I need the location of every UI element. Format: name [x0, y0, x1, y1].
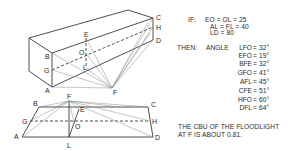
label-a-plan: A [14, 133, 19, 140]
angle-name: LFO [239, 44, 252, 51]
angle-prefix: ANGLE [206, 44, 229, 51]
label-l-plan: L [67, 142, 71, 149]
angle-value: = 64° [253, 104, 269, 111]
angle-value: = 45° [253, 78, 269, 85]
angle-value: = 60° [253, 96, 269, 103]
angle-value: = 32° [253, 60, 269, 67]
conclusion-line: AT F IS ABOUT 0.81. [178, 131, 242, 138]
angle-name: CFE [239, 87, 252, 94]
floodlight-diagram-figure: B G A E O L C H D F F B C E [0, 0, 304, 151]
given-label: IF: [188, 16, 196, 23]
angle-name: HFO [238, 96, 252, 103]
label-h-plan: H [152, 118, 157, 125]
angle-name: AFL [240, 78, 252, 85]
label-e-plan: E [80, 106, 85, 113]
label-g-plan: G [22, 118, 27, 125]
conclusion-line: THE CBU OF THE FLOODLIGHT [178, 123, 279, 130]
angle-name: DFL [240, 104, 252, 111]
label-b-plan: B [33, 100, 38, 107]
given-line: LD = 80 [210, 29, 234, 36]
angle-value: = 19° [253, 52, 269, 59]
angle-value: = 41° [253, 69, 269, 76]
angle-name: BFE [239, 60, 252, 67]
angle-name: GFO [238, 69, 252, 76]
label-d-plan: D [155, 134, 160, 141]
result-label: THEN: [177, 44, 197, 51]
label-c-plan: C [151, 101, 156, 108]
given-line: EO = OL = 25 [205, 16, 247, 23]
angle-name: EFO [238, 52, 252, 59]
label-f-plan: F [67, 93, 71, 100]
label-o-plan: O [75, 123, 81, 130]
angle-value: = 51° [253, 87, 269, 94]
angle-value: = 32° [253, 44, 269, 51]
